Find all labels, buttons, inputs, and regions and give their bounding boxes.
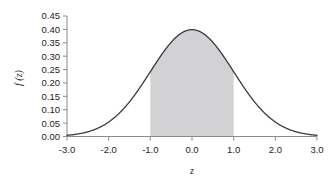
- x-tick-label: 1.0: [227, 144, 240, 155]
- y-tick-label: 0.30: [42, 51, 61, 62]
- x-tick-label: -2.0: [100, 144, 116, 155]
- y-tick-label: 0.10: [42, 104, 61, 115]
- y-tick-label: 0.40: [42, 24, 61, 35]
- y-tick-label: 0.45: [42, 10, 61, 21]
- y-axis-title: f (z): [13, 69, 25, 86]
- y-tick-label: 0.00: [42, 131, 61, 142]
- x-tick-label: 2.0: [269, 144, 282, 155]
- y-tick-label: 0.05: [42, 118, 61, 129]
- y-tick-label: 0.15: [42, 91, 61, 102]
- x-tick-label: 3.0: [310, 144, 323, 155]
- x-tick-label: -1.0: [142, 144, 158, 155]
- y-tick-label: 0.20: [42, 77, 61, 88]
- x-tick-label: -3.0: [59, 144, 75, 155]
- y-tick-label: 0.25: [42, 64, 61, 75]
- y-tick-label: 0.35: [42, 37, 61, 48]
- x-tick-label: 0.0: [185, 144, 198, 155]
- normal-distribution-chart: 0.000.050.100.150.200.250.300.350.400.45…: [0, 0, 330, 185]
- x-axis-title: z: [189, 165, 194, 176]
